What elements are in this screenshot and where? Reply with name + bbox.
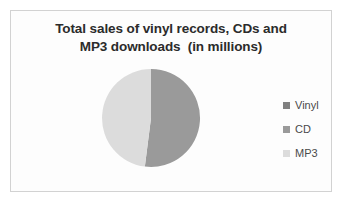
- pie-slice-mp3[interactable]: [102, 69, 151, 167]
- legend-label-mp3: MP3: [295, 148, 318, 159]
- pie-chart-svg: [100, 67, 202, 169]
- legend-item-vinyl[interactable]: Vinyl: [283, 93, 341, 117]
- legend-label-vinyl: Vinyl: [295, 100, 319, 111]
- pie-slice-group: [102, 69, 200, 167]
- chart-frame: Total sales of vinyl records, CDs and MP…: [10, 10, 332, 192]
- chart-title-line-1: Total sales of vinyl records, CDs and: [11, 20, 331, 38]
- legend-swatch-vinyl-icon: [283, 102, 290, 109]
- pie-slice-cd[interactable]: [145, 69, 200, 167]
- chart-title: Total sales of vinyl records, CDs and MP…: [11, 20, 331, 56]
- pie-chart-plot-area: [100, 67, 202, 169]
- legend-item-cd[interactable]: CD: [283, 117, 341, 141]
- legend-swatch-cd-icon: [283, 126, 290, 133]
- legend-label-cd: CD: [295, 124, 311, 135]
- legend-swatch-mp3-icon: [283, 150, 290, 157]
- chart-title-line-2: MP3 downloads (in millions): [11, 38, 331, 56]
- chart-legend: Vinyl CD MP3: [283, 93, 341, 165]
- legend-item-mp3[interactable]: MP3: [283, 141, 341, 165]
